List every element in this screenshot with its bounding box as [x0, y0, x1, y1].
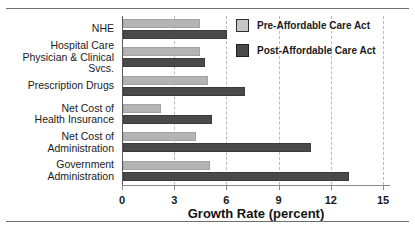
bar-post-aca: [123, 143, 311, 152]
bar-post-aca: [123, 115, 212, 124]
bar-post-aca: [123, 58, 205, 67]
bar-group: [123, 101, 383, 129]
bar-post-aca: [123, 87, 245, 96]
category-label: Net Cost of Administration: [0, 131, 114, 154]
category-label: Government Administration: [0, 159, 114, 182]
legend-label-post-aca: Post-Affordable Care Act: [257, 45, 376, 56]
category-axis-labels: NHE Hospital Care Physician & Clinical S…: [0, 16, 118, 185]
bar-pre-aca: [123, 132, 196, 141]
bar-post-aca: [123, 30, 227, 39]
axis-tick: [383, 186, 384, 190]
legend-swatch-pre-aca: [236, 19, 249, 32]
axis-tick-label: 15: [377, 194, 389, 206]
category-label: Prescription Drugs: [0, 80, 114, 92]
bar-pre-aca: [123, 161, 210, 170]
axis-tick-label: 6: [223, 194, 229, 206]
category-label: NHE: [0, 23, 114, 35]
bar-pre-aca: [123, 47, 200, 56]
top-divider-rule: [6, 8, 409, 9]
axis-tick-label: 3: [171, 194, 177, 206]
category-label: Hospital Care Physician & Clinical Svcs.: [0, 40, 114, 75]
bar-pre-aca: [123, 19, 200, 28]
legend-item-post-aca: Post-Affordable Care Act: [236, 41, 411, 60]
bar-group: [123, 158, 383, 186]
axis-tick: [174, 186, 175, 190]
legend: Pre-Affordable Care Act Post-Affordable …: [236, 16, 411, 66]
bar-group: [123, 73, 383, 101]
legend-label-pre-aca: Pre-Affordable Care Act: [257, 20, 370, 31]
category-label: Net Cost of Health Insurance: [0, 103, 114, 126]
axis-tick-label: 0: [119, 194, 125, 206]
axis-tick-label: 12: [325, 194, 337, 206]
chart-figure: NHE Hospital Care Physician & Clinical S…: [0, 0, 415, 229]
axis-tick: [226, 186, 227, 190]
bar-pre-aca: [123, 104, 161, 113]
bottom-divider-rule: [6, 221, 409, 222]
bar-post-aca: [123, 172, 349, 181]
axis-tick: [331, 186, 332, 190]
axis-tick: [279, 186, 280, 190]
legend-item-pre-aca: Pre-Affordable Care Act: [236, 16, 411, 35]
bar-group: [123, 129, 383, 157]
axis-tick: [122, 186, 123, 190]
x-axis-title: Growth Rate (percent): [122, 206, 390, 221]
axis-tick-label: 9: [276, 194, 282, 206]
legend-swatch-post-aca: [236, 44, 249, 57]
bar-pre-aca: [123, 76, 208, 85]
